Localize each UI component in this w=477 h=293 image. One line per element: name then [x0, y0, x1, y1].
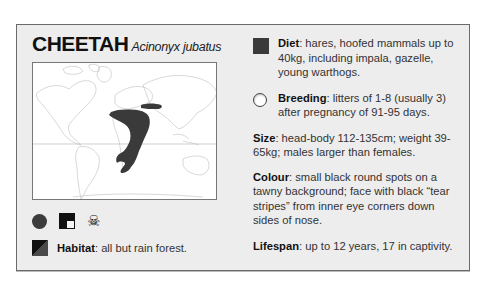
- skull-crossbones-icon: ☠: [87, 213, 100, 229]
- species-title: CHEETAHAcinonyx jubatus: [32, 32, 221, 56]
- common-name: CHEETAH: [32, 32, 128, 55]
- breeding-egg-icon: [253, 93, 267, 107]
- size-text: : head-body 112-135cm; weight 39-65kg; m…: [253, 132, 451, 159]
- diet-label: Diet: [278, 37, 299, 49]
- habitat-label: Habitat: [57, 242, 95, 254]
- diet-entry: Diet: hares, hoofed mammals up to 40kg, …: [253, 36, 458, 80]
- lifespan-text: : up to 12 years, 17 in captivity.: [299, 240, 452, 252]
- breeding-entry: Breeding: litters of 1-8 (usually 3) aft…: [253, 91, 458, 120]
- size-label: Size: [253, 132, 275, 144]
- range-area: [109, 104, 162, 174]
- habitat-icon: [32, 240, 48, 256]
- status-icons: ☠: [32, 212, 100, 230]
- facts-column: Diet: hares, hoofed mammals up to 40kg, …: [253, 35, 458, 253]
- diet-text: : hares, hoofed mammals up to 40kg, incl…: [278, 37, 453, 78]
- size-entry: Size: head-body 112-135cm; weight 39-65k…: [253, 131, 458, 160]
- habitat-text: : all but rain forest.: [95, 242, 187, 254]
- square-with-notch-icon: [59, 213, 75, 229]
- distribution-map: [32, 62, 217, 200]
- circle-icon: [32, 214, 47, 229]
- species-card: CHEETAHAcinonyx jubatus: [16, 24, 470, 271]
- colour-label: Colour: [253, 171, 289, 183]
- latin-name: Acinonyx jubatus: [131, 40, 221, 54]
- world-map-outline: [33, 63, 217, 200]
- lifespan-entry: Lifespan: up to 12 years, 17 in captivit…: [253, 239, 458, 254]
- colour-entry: Colour: small black round spots on a taw…: [253, 170, 458, 228]
- diet-icon: [253, 38, 269, 54]
- breeding-label: Breeding: [278, 92, 327, 104]
- habitat-entry: Habitat: all but rain forest.: [32, 240, 187, 256]
- lifespan-label: Lifespan: [253, 240, 299, 252]
